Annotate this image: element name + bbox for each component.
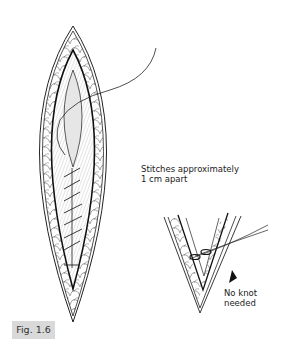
annotation-line: No knot <box>224 288 257 298</box>
no-knot-annotation: No knot needed <box>224 288 257 308</box>
annotation-line: Stitches approximately <box>141 164 239 174</box>
arrow-pointer-icon <box>229 270 237 283</box>
annotation-line: 1 cm apart <box>141 174 239 184</box>
annotation-line: needed <box>224 298 257 308</box>
stitch-spacing-annotation: Stitches approximately 1 cm apart <box>141 164 239 184</box>
figure-label: Fig. 1.6 <box>12 321 55 339</box>
main-wound <box>40 26 157 322</box>
